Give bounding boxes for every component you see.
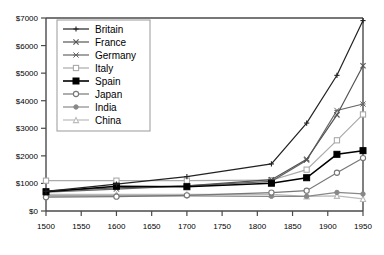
line-chart: $0$1000$2000$3000$4000$5000$6000$7000150…: [0, 0, 384, 255]
legend-label-china: China: [95, 115, 122, 126]
legend-label-spain: Spain: [95, 76, 121, 87]
x-tick-label: 1800: [248, 222, 266, 231]
legend: BritainFranceGermanyItalySpainJapanIndia…: [57, 20, 150, 131]
series-point-italy: [43, 178, 48, 183]
x-tick-label: 1600: [108, 222, 126, 231]
series-point-spain: [334, 151, 340, 157]
y-tick-label: $2000: [16, 152, 39, 161]
series-point-italy: [304, 167, 309, 172]
series-point-japan: [184, 193, 189, 198]
series-point-india: [361, 192, 365, 196]
series-point-india: [304, 194, 308, 198]
y-tick-label: $5000: [16, 69, 39, 78]
series-point-japan: [114, 194, 119, 199]
x-tick-label: 1700: [178, 222, 196, 231]
legend-marker-spain: [73, 78, 79, 84]
series-point-japan: [360, 155, 365, 160]
y-tick-label: $3000: [16, 124, 39, 133]
x-tick-label: 1550: [72, 222, 90, 231]
legend-label-italy: Italy: [95, 63, 113, 74]
y-tick-label: $6000: [16, 42, 39, 51]
series-point-japan: [269, 190, 274, 195]
series-point-india: [335, 190, 339, 194]
series-point-italy: [360, 112, 365, 117]
chart-container: $0$1000$2000$3000$4000$5000$6000$7000150…: [0, 0, 384, 255]
legend-label-japan: Japan: [95, 89, 122, 100]
series-point-spain: [268, 180, 274, 186]
x-tick-label: 1950: [354, 222, 372, 231]
x-tick-label: 1650: [143, 222, 161, 231]
x-tick-label: 1500: [37, 222, 55, 231]
series-point-japan: [43, 195, 48, 200]
x-tick-label: 1750: [213, 222, 231, 231]
x-tick-label: 1900: [319, 222, 337, 231]
legend-marker-india: [74, 105, 78, 109]
series-point-spain: [304, 175, 310, 181]
x-tick-label: 1850: [284, 222, 302, 231]
legend-label-britain: Britain: [95, 24, 123, 35]
legend-marker-italy: [73, 65, 78, 70]
series-point-spain: [360, 148, 366, 154]
legend-label-germany: Germany: [95, 50, 136, 61]
series-point-japan: [304, 188, 309, 193]
legend-label-france: France: [95, 37, 127, 48]
series-point-spain: [184, 184, 190, 190]
series-point-japan: [334, 170, 339, 175]
legend-marker-japan: [73, 91, 78, 96]
y-tick-label: $7000: [16, 14, 39, 23]
y-tick-label: $1000: [16, 179, 39, 188]
y-tick-label: $4000: [16, 97, 39, 106]
legend-label-india: India: [95, 102, 117, 113]
y-tick-label: $0: [29, 207, 38, 216]
series-point-italy: [334, 138, 339, 143]
